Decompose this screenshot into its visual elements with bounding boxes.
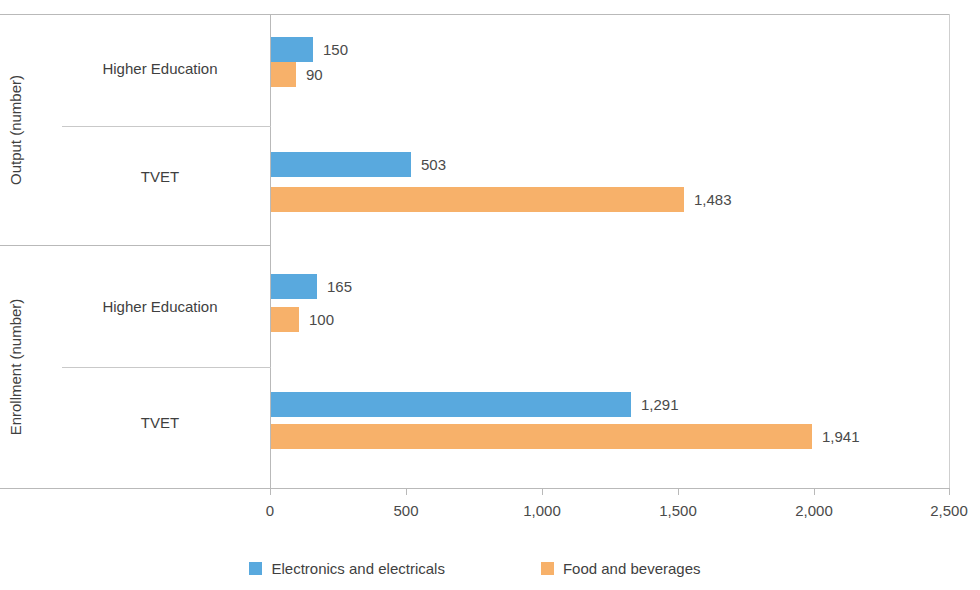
chart-top-border: [0, 14, 950, 15]
separator-output-groups: [62, 126, 271, 127]
xtick-mark-1500: [678, 489, 679, 495]
xtick-mark-0: [270, 489, 271, 495]
bar-label-output-he-electronics: 150: [323, 37, 348, 62]
legend-swatch-food-icon: [541, 562, 554, 575]
bar-enrollment-he-food[interactable]: [271, 307, 299, 332]
xtick-label-1500: 1,500: [659, 502, 697, 519]
legend-label-electronics: Electronics and electricals: [271, 560, 444, 577]
bar-output-tvet-food[interactable]: [271, 187, 684, 212]
legend-label-food: Food and beverages: [563, 560, 701, 577]
bar-label-enrollment-tvet-food: 1,941: [822, 424, 860, 449]
chart-legend: Electronics and electricals Food and bev…: [0, 560, 950, 577]
xtick-label-2000: 2,000: [795, 502, 833, 519]
xtick-label-2500: 2,500: [930, 502, 968, 519]
bar-enrollment-tvet-food[interactable]: [271, 424, 812, 449]
axis-title-enrollment: Enrollment (number): [0, 245, 30, 489]
bar-label-enrollment-tvet-electronics: 1,291: [641, 392, 679, 417]
legend-swatch-electronics-icon: [249, 562, 262, 575]
xtick-label-1000: 1,000: [523, 502, 561, 519]
bar-label-enrollment-he-food: 100: [309, 307, 334, 332]
xtick-mark-1000: [542, 489, 543, 495]
xtick-mark-2000: [814, 489, 815, 495]
bar-chart: Output (number) Enrollment (number) High…: [0, 0, 980, 590]
separator-output-enrollment: [0, 245, 271, 246]
xtick-mark-2500: [949, 489, 950, 495]
bar-label-output-tvet-food: 1,483: [694, 187, 732, 212]
category-label-output-higher-education: Higher Education: [62, 60, 258, 77]
bar-label-output-tvet-electronics: 503: [421, 152, 446, 177]
xtick-mark-500: [406, 489, 407, 495]
bar-label-output-he-food: 90: [306, 62, 323, 87]
separator-enrollment-groups: [62, 367, 271, 368]
category-label-output-tvet: TVET: [62, 168, 258, 185]
category-label-enrollment-higher-education: Higher Education: [62, 298, 258, 315]
xtick-label-500: 500: [393, 502, 418, 519]
category-label-enrollment-tvet: TVET: [62, 414, 258, 431]
axis-title-output: Output (number): [0, 14, 30, 245]
bar-enrollment-tvet-electronics[interactable]: [271, 392, 631, 417]
axis-title-enrollment-text: Enrollment (number): [7, 299, 24, 436]
bar-output-he-electronics[interactable]: [271, 37, 313, 62]
bar-output-he-food[interactable]: [271, 62, 296, 87]
xtick-label-0: 0: [266, 502, 274, 519]
bar-output-tvet-electronics[interactable]: [271, 152, 411, 177]
legend-item-electronics[interactable]: Electronics and electricals: [249, 560, 444, 577]
bar-enrollment-he-electronics[interactable]: [271, 274, 317, 299]
category-axis-line: [0, 488, 950, 489]
chart-right-border: [949, 14, 950, 489]
axis-title-output-text: Output (number): [7, 74, 24, 184]
legend-item-food[interactable]: Food and beverages: [541, 560, 701, 577]
bar-label-enrollment-he-electronics: 165: [327, 274, 352, 299]
